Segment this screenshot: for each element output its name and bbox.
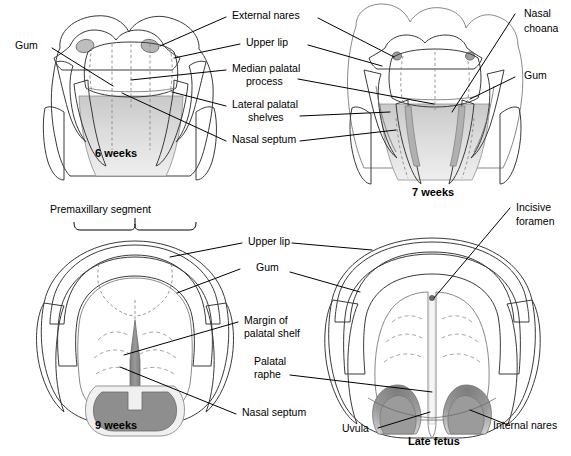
- label-gum-bottom: Gum: [256, 261, 279, 273]
- leader-external-nares-left: [160, 17, 226, 46]
- label-uvula: Uvula: [342, 422, 369, 434]
- label-lateral-palatal-shelves-line2: shelves: [248, 111, 284, 123]
- seven-weeks-cavity: [380, 104, 490, 180]
- late-fetus-rugae-r3: [440, 354, 480, 362]
- label-palatal-raphe-line2: raphe: [254, 368, 281, 380]
- nine-weeks-stage-label: 9 weeks: [95, 419, 137, 431]
- seven-weeks-stage-label: 7 weeks: [412, 186, 454, 198]
- leader-gum-top-left: [52, 48, 113, 86]
- label-internal-nares: Internal nares: [493, 419, 557, 431]
- nine-weeks-nasal-septum: [130, 320, 140, 392]
- nine-weeks-rugae-right-2: [140, 350, 176, 358]
- label-upper-lip-top: Upper lip: [246, 36, 288, 48]
- palate-development-figure: 6 weeks: [0, 0, 571, 456]
- leader-gum-late-fetus: [290, 272, 360, 292]
- label-upper-lip-bottom: Upper lip: [248, 235, 290, 247]
- label-lateral-palatal-shelves-line1: Lateral palatal: [232, 98, 298, 110]
- nine-weeks-premaxillary-dashed: [98, 264, 135, 316]
- nine-weeks-rugae-left-1: [98, 332, 130, 340]
- label-palatal-raphe-line1: Palatal: [254, 355, 286, 367]
- leader-palatal-raphe: [290, 375, 432, 392]
- leader-upper-lip-right: [308, 45, 382, 66]
- label-margin-palatal-shelf-line1: Margin of: [244, 314, 288, 326]
- six-weeks-left-naris: [75, 38, 95, 54]
- six-weeks-process-border: [88, 88, 175, 92]
- six-weeks-stage-label: 6 weeks: [95, 147, 137, 159]
- label-margin-palatal-shelf-line2: palatal shelf: [244, 327, 300, 339]
- six-weeks-right-jaw: [196, 107, 216, 180]
- figure-canvas: 6 weeks: [0, 0, 571, 456]
- label-incisive-foramen-line1: Incisive: [516, 201, 551, 213]
- panel-six-weeks: 6 weeks: [43, 16, 216, 180]
- nine-weeks-rugae-left-3: [96, 367, 130, 374]
- nine-weeks-premaxillary-dashed-right: [135, 264, 172, 316]
- late-fetus-rugae-r2: [440, 334, 478, 342]
- late-fetus-palatal-raphe: [429, 296, 435, 424]
- six-weeks-left-jaw: [43, 107, 64, 180]
- label-nasal-septum-bottom: Nasal septum: [242, 406, 306, 418]
- label-nasal-choana-line1: Nasal: [524, 7, 551, 19]
- late-fetus-rugae-l3: [384, 354, 424, 362]
- label-median-palatal-process-line2: process: [246, 75, 283, 87]
- nine-weeks-rugae-right-1: [140, 332, 172, 340]
- leader-median-process-right: [298, 79, 434, 104]
- label-gum-top-right: Gum: [524, 69, 547, 81]
- label-nasal-septum-top: Nasal septum: [232, 133, 296, 145]
- leader-upper-lip-late-fetus: [292, 243, 372, 250]
- leader-lateral-shelves-right: [300, 112, 390, 116]
- leader-nasal-choana: [452, 14, 515, 112]
- panel-late-fetus: Late fetus: [325, 238, 540, 447]
- label-layer: Gum External nares Upper lip Median pala…: [15, 7, 559, 434]
- seven-weeks-left-cheek: [350, 107, 371, 184]
- six-weeks-upper-lip: [54, 30, 180, 70]
- label-external-nares: External nares: [232, 9, 300, 21]
- seven-weeks-right-cheek: [500, 107, 521, 184]
- label-premaxillary-segment: Premaxillary segment: [50, 203, 151, 215]
- leader-upper-lip-left: [174, 44, 240, 58]
- panel-seven-weeks: 7 weeks: [347, 4, 522, 198]
- late-fetus-rugae-r1: [440, 316, 472, 322]
- label-gum-top-left: Gum: [15, 39, 38, 51]
- late-fetus-rugae-l1: [392, 316, 424, 322]
- seven-weeks-guide-left: [401, 56, 403, 104]
- late-fetus-stage-label: Late fetus: [408, 435, 460, 447]
- seven-weeks-right-naris: [466, 52, 475, 60]
- late-fetus-right-cheek: [507, 300, 540, 424]
- label-incisive-foramen-line2: foramen: [516, 215, 555, 227]
- late-fetus-rugae-l2: [386, 334, 424, 342]
- six-weeks-oral-cavity: [79, 96, 183, 176]
- label-median-palatal-process-line1: Median palatal: [232, 62, 300, 74]
- label-nasal-choana-line2: choana: [524, 22, 559, 34]
- nine-weeks-rugae-left-2: [94, 350, 130, 358]
- nine-weeks-rugae-right-3: [140, 367, 174, 374]
- seven-weeks-guide-right: [467, 56, 469, 104]
- leader-margin-palatal-shelf: [124, 322, 238, 355]
- leader-gum-bottom: [177, 269, 240, 293]
